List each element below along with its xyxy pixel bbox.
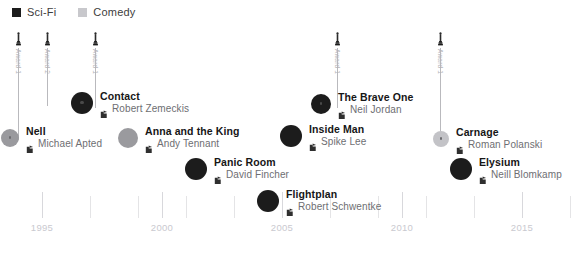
film-director-row: Andy Tennant xyxy=(145,138,239,150)
film-director: Robert Zemeckis xyxy=(112,103,189,115)
oscar-statuette-icon xyxy=(44,32,51,47)
film-entry[interactable]: ElysiumNeill Blomkamp xyxy=(450,156,562,181)
film-title: Panic Room xyxy=(214,156,289,168)
film-director: Robert Schwentke xyxy=(298,201,381,213)
year-label-2010: 2010 xyxy=(391,222,413,233)
director-chair-icon xyxy=(309,138,317,147)
film-entry[interactable]: The Brave OneNeil Jordan xyxy=(311,91,413,116)
film-director: Neil Jordan xyxy=(350,104,402,116)
gridline-minor xyxy=(570,196,571,218)
director-chair-icon xyxy=(338,106,346,115)
film-entry[interactable]: Anna and the KingAndy Tennant xyxy=(118,125,239,150)
film-entry[interactable]: Panic RoomDavid Fincher xyxy=(185,156,289,181)
film-text-block: Inside ManSpike Lee xyxy=(309,123,366,148)
film-bubble[interactable] xyxy=(280,125,302,147)
legend-label: Comedy xyxy=(93,6,135,18)
film-director-row: Robert Schwentke xyxy=(286,201,381,213)
year-label-2000: 2000 xyxy=(151,222,173,233)
film-bubble[interactable] xyxy=(257,190,279,212)
film-text-block: ElysiumNeill Blomkamp xyxy=(479,156,562,181)
film-entry[interactable]: NellMichael Apted xyxy=(1,125,102,150)
film-text-block: Anna and the KingAndy Tennant xyxy=(145,125,239,150)
film-director-row: Michael Apted xyxy=(26,138,102,150)
award-label: Award 1 xyxy=(334,49,341,74)
film-bubble[interactable] xyxy=(311,94,331,114)
square-swatch-icon xyxy=(12,8,21,17)
film-bubble[interactable] xyxy=(71,92,93,114)
film-text-block: ContactRobert Zemeckis xyxy=(100,90,189,115)
gridline-1995 xyxy=(42,192,43,218)
film-entry[interactable]: Inside ManSpike Lee xyxy=(280,123,366,148)
film-bubble-core xyxy=(9,136,12,139)
director-chair-icon xyxy=(456,141,464,150)
film-title: Flightplan xyxy=(286,188,381,200)
gridline-2015 xyxy=(522,192,523,218)
legend-label: Sci-Fi xyxy=(27,6,56,18)
director-chair-icon xyxy=(100,105,108,114)
film-director-row: Neil Jordan xyxy=(338,104,413,116)
director-chair-icon xyxy=(479,171,487,180)
film-director-row: Neill Blomkamp xyxy=(479,169,562,181)
gridline-minor xyxy=(90,196,91,218)
year-label-1995: 1995 xyxy=(31,222,53,233)
film-director: Roman Polanski xyxy=(468,139,542,151)
film-entry[interactable]: CarnageRoman Polanski xyxy=(433,126,542,151)
film-title: Inside Man xyxy=(309,123,366,135)
film-bubble[interactable] xyxy=(433,131,449,147)
film-text-block: NellMichael Apted xyxy=(26,125,102,150)
legend-item-sci-fi[interactable]: Sci-Fi xyxy=(12,6,56,18)
year-label-2015: 2015 xyxy=(511,222,533,233)
gridline-minor xyxy=(138,196,139,218)
film-director: Spike Lee xyxy=(321,136,366,148)
year-label-2005: 2005 xyxy=(271,222,293,233)
film-director: Andy Tennant xyxy=(157,138,219,150)
film-title: Carnage xyxy=(456,126,542,138)
film-director-row: David Fincher xyxy=(214,169,289,181)
director-chair-icon xyxy=(286,203,294,212)
film-bubble[interactable] xyxy=(450,158,472,180)
film-bubble[interactable] xyxy=(1,129,19,147)
oscar-statuette-icon xyxy=(334,32,341,47)
director-chair-icon xyxy=(26,140,34,149)
award-label: Award 1 xyxy=(15,49,22,74)
film-text-block: CarnageRoman Polanski xyxy=(456,126,542,151)
film-title: Nell xyxy=(26,125,102,137)
film-bubble-core xyxy=(440,137,442,139)
director-chair-icon xyxy=(145,140,153,149)
oscar-statuette-icon xyxy=(437,32,444,47)
film-director: Neill Blomkamp xyxy=(491,169,562,181)
gridline-minor xyxy=(186,196,187,218)
square-swatch-icon xyxy=(78,8,87,17)
legend: Sci-FiComedy xyxy=(12,6,135,18)
film-director-row: Spike Lee xyxy=(309,136,366,148)
director-chair-icon xyxy=(214,171,222,180)
film-title: Contact xyxy=(100,90,189,102)
film-entry[interactable]: FlightplanRobert Schwentke xyxy=(257,188,381,213)
film-bubble[interactable] xyxy=(118,128,138,148)
film-text-block: FlightplanRobert Schwentke xyxy=(286,188,381,213)
film-bubble-core xyxy=(320,102,323,105)
award-label: Award 1 xyxy=(437,49,444,74)
film-bubble-core xyxy=(80,101,83,104)
gridline-minor xyxy=(234,196,235,218)
film-title: Elysium xyxy=(479,156,562,168)
legend-item-comedy[interactable]: Comedy xyxy=(78,6,135,18)
film-title: Anna and the King xyxy=(145,125,239,137)
film-title: The Brave One xyxy=(338,91,413,103)
film-director: Michael Apted xyxy=(38,138,102,150)
timeline-chart: Sci-FiComedy 19952000200520102015 Award … xyxy=(0,0,583,253)
oscar-statuette-icon xyxy=(15,32,22,47)
film-director-row: Robert Zemeckis xyxy=(100,103,189,115)
award-label: Award 1 xyxy=(92,49,99,74)
award-label: Award 2 xyxy=(44,49,51,74)
film-text-block: Panic RoomDavid Fincher xyxy=(214,156,289,181)
gridline-2000 xyxy=(162,192,163,218)
film-director-row: Roman Polanski xyxy=(456,139,542,151)
gridline-minor xyxy=(426,196,427,218)
film-entry[interactable]: ContactRobert Zemeckis xyxy=(71,90,189,115)
oscar-statuette-icon xyxy=(92,32,99,47)
film-director: David Fincher xyxy=(226,169,289,181)
film-bubble[interactable] xyxy=(185,158,207,180)
gridline-minor xyxy=(474,196,475,218)
film-text-block: The Brave OneNeil Jordan xyxy=(338,91,413,116)
